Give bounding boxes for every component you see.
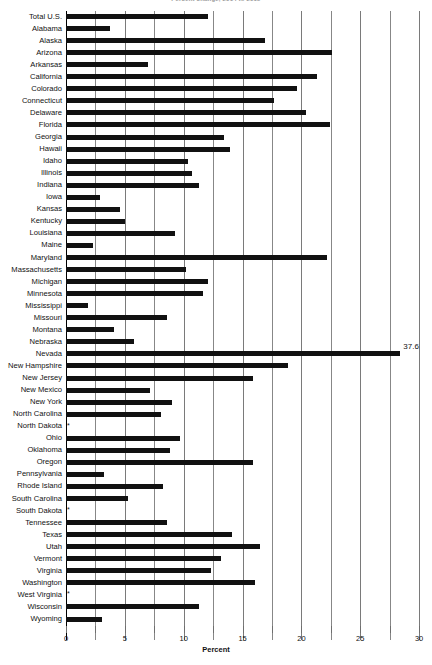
bar [66, 532, 232, 537]
bar-row [66, 553, 419, 565]
x-axis-tick [125, 626, 126, 633]
bar-row: 37.6 [66, 348, 419, 360]
category-label: Connecticut [0, 97, 62, 105]
bar [66, 520, 167, 525]
bar [66, 147, 230, 152]
bar [66, 62, 148, 67]
category-label: Delaware [0, 109, 62, 117]
bar-chart: Percent change, 2014 to 2015 37.6*** Tot… [0, 0, 432, 665]
category-label: Maine [0, 241, 62, 249]
bar-row [66, 577, 419, 589]
bar-row [66, 445, 419, 457]
x-axis-tick [213, 626, 214, 633]
category-label: Alabama [0, 25, 62, 33]
category-label: Louisiana [0, 229, 62, 237]
bar-row [66, 288, 419, 300]
bar [66, 472, 104, 477]
category-label: New Hampshire [0, 362, 62, 370]
bar [66, 388, 150, 393]
bar-row [66, 517, 419, 529]
bar-row [66, 240, 419, 252]
chart-title: Percent change, 2014 to 2015 [0, 0, 432, 2]
category-label: Nebraska [0, 338, 62, 346]
category-label: Illinois [0, 169, 62, 177]
bar-row [66, 156, 419, 168]
bar-row [66, 541, 419, 553]
category-label: Indiana [0, 181, 62, 189]
bar-row [66, 264, 419, 276]
bar [66, 231, 175, 236]
category-label: Rhode Island [0, 482, 62, 490]
category-label: Massachusetts [0, 266, 62, 274]
bar-row [66, 276, 419, 288]
x-axis-tick-label: 10 [169, 635, 199, 643]
bar-row [66, 192, 419, 204]
bar [66, 110, 306, 115]
bar [66, 556, 221, 561]
bar [66, 50, 332, 55]
bar-row [66, 228, 419, 240]
bar [66, 376, 253, 381]
bar [66, 351, 400, 356]
bar [66, 315, 167, 320]
bar [66, 568, 211, 573]
x-axis-tick [184, 626, 185, 633]
x-axis-tick [243, 626, 244, 633]
bar-row [66, 204, 419, 216]
bar [66, 135, 224, 140]
bar-row: * [66, 505, 419, 517]
bar-row [66, 168, 419, 180]
category-label: South Carolina [0, 495, 62, 503]
bar [66, 219, 125, 224]
bar-row [66, 312, 419, 324]
bar-row [66, 252, 419, 264]
bar [66, 460, 253, 465]
bar [66, 26, 110, 31]
x-axis-tick-label: 5 [110, 635, 140, 643]
category-label: California [0, 73, 62, 81]
bar [66, 400, 172, 405]
bar-row [66, 132, 419, 144]
bar [66, 291, 203, 296]
bar-row [66, 385, 419, 397]
bar-row [66, 360, 419, 372]
x-axis-tick-label: 0 [51, 635, 81, 643]
bar-row [66, 601, 419, 613]
bar-row [66, 481, 419, 493]
bar [66, 74, 317, 79]
bar-row [66, 529, 419, 541]
x-axis-tick-label: 30 [404, 635, 432, 643]
bar-row [66, 11, 419, 23]
category-label: Washington [0, 579, 62, 587]
bar [66, 496, 128, 501]
bar-row [66, 23, 419, 35]
bar [66, 14, 208, 19]
bar [66, 484, 163, 489]
bar-value-label: 37.6 [403, 343, 419, 351]
x-axis-title: Percent [0, 646, 432, 654]
bar-row [66, 493, 419, 505]
x-axis-tick-label: 25 [345, 635, 375, 643]
bar-row [66, 144, 419, 156]
x-axis-tick [66, 626, 67, 633]
x-axis-tick [95, 626, 96, 633]
bar-row [66, 216, 419, 228]
bar-row [66, 300, 419, 312]
bar-row [66, 180, 419, 192]
bar [66, 327, 114, 332]
bar [66, 604, 199, 609]
category-label: Colorado [0, 85, 62, 93]
bar-row [66, 565, 419, 577]
bar-row [66, 433, 419, 445]
bar [66, 86, 297, 91]
bar-row [66, 95, 419, 107]
bar [66, 267, 186, 272]
category-label: New York [0, 398, 62, 406]
suppressed-marker: * [67, 506, 70, 513]
bar [66, 183, 199, 188]
category-label: North Carolina [0, 410, 62, 418]
category-label: Georgia [0, 133, 62, 141]
category-label: Minnesota [0, 290, 62, 298]
x-axis-tick [331, 626, 332, 633]
bar [66, 195, 100, 200]
